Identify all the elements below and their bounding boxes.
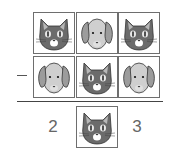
minus-sign: [17, 75, 27, 76]
cat-icon: [119, 13, 159, 53]
result-left-digit: 2: [43, 117, 63, 137]
cat-icon: [34, 13, 74, 53]
cat-icon: [77, 57, 117, 97]
row1-cell2-dog: [76, 12, 118, 54]
sum-rule-line: [17, 101, 163, 102]
result-middle-cat: [76, 106, 118, 148]
row2-cell1-dog: [33, 56, 75, 98]
row2-cell3-dog: [118, 56, 160, 98]
dog-icon: [34, 57, 74, 97]
dog-icon: [77, 13, 117, 53]
cat-icon: [77, 107, 117, 147]
row1-cell3-cat: [118, 12, 160, 54]
row2-cell2-cat: [76, 56, 118, 98]
result-right-digit: 3: [127, 117, 147, 137]
dog-icon: [119, 57, 159, 97]
row1-cell1-cat: [33, 12, 75, 54]
